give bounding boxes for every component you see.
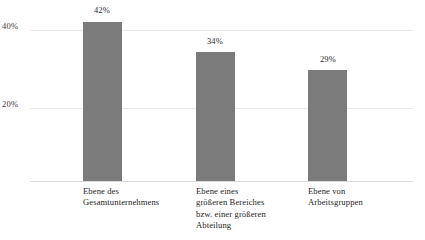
category-label-2-line-1: Ebene eines bbox=[196, 186, 308, 197]
category-label-1: Ebene des Gesamtunternehmens bbox=[83, 186, 195, 209]
category-label-3-line-2: Arbeitsgruppen bbox=[308, 197, 420, 208]
category-label-2-line-2: größeren Bereiches bbox=[196, 197, 308, 208]
category-label-3: Ebene von Arbeitsgruppen bbox=[308, 186, 420, 209]
bar-ebene-von-arbeitsgruppen bbox=[308, 70, 347, 181]
value-label-bar-1: 42% bbox=[72, 5, 132, 15]
ytick-label-20: 20% bbox=[2, 99, 32, 109]
axis-baseline bbox=[30, 181, 413, 182]
category-label-2: Ebene eines größeren Bereiches bzw. eine… bbox=[196, 186, 308, 232]
value-label-bar-3: 29% bbox=[298, 54, 358, 64]
ytick-label-40: 40% bbox=[2, 21, 32, 31]
category-label-1-line-2: Gesamtunternehmens bbox=[83, 197, 195, 208]
bar-ebene-eines-groesseren-bereiches bbox=[196, 52, 235, 181]
value-label-bar-2: 34% bbox=[185, 36, 245, 46]
bar-ebene-des-gesamtunternehmens bbox=[83, 22, 122, 181]
category-label-3-line-1: Ebene von bbox=[308, 186, 420, 197]
category-label-2-line-4: Abteilung bbox=[196, 220, 308, 231]
plot-area: 42% 34% 29% bbox=[30, 0, 413, 182]
bar-chart: 42% 34% 29% 40% 20% Ebene des Gesamtunte… bbox=[0, 0, 425, 240]
category-label-1-line-1: Ebene des bbox=[83, 186, 195, 197]
category-label-2-line-3: bzw. einer größeren bbox=[196, 209, 308, 220]
